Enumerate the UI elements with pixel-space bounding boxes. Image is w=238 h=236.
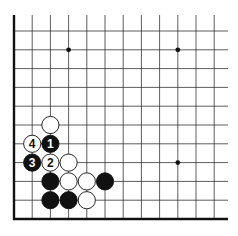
black-stone-3: 3 xyxy=(24,154,41,171)
white-stone xyxy=(60,173,77,190)
move-number-label: 2 xyxy=(47,156,54,170)
black-stone-icon xyxy=(60,192,77,209)
white-stone-2: 2 xyxy=(42,154,59,171)
move-number-label: 4 xyxy=(29,137,36,151)
black-stone xyxy=(96,173,113,190)
white-stone-icon xyxy=(60,173,77,190)
white-stone-icon xyxy=(78,192,95,209)
white-stone xyxy=(42,116,59,133)
go-board-diagram: 4132 xyxy=(0,0,238,236)
black-stone xyxy=(60,192,77,209)
black-stone-icon xyxy=(42,192,59,209)
white-stone-icon xyxy=(78,173,95,190)
white-stone-icon xyxy=(60,154,77,171)
black-stone-icon xyxy=(42,173,59,190)
star-point-icon xyxy=(175,160,180,165)
board-grid xyxy=(13,15,228,220)
move-number-label: 3 xyxy=(29,156,36,170)
white-stone-4: 4 xyxy=(24,135,41,152)
black-stone-icon xyxy=(96,173,113,190)
star-point-icon xyxy=(66,47,71,52)
star-point-icon xyxy=(175,47,180,52)
white-stone xyxy=(78,173,95,190)
white-stone xyxy=(60,154,77,171)
white-stone-icon xyxy=(42,116,59,133)
black-stone xyxy=(42,192,59,209)
black-stone-1: 1 xyxy=(42,135,59,152)
move-number-label: 1 xyxy=(47,137,54,151)
black-stone xyxy=(42,173,59,190)
white-stone xyxy=(78,192,95,209)
